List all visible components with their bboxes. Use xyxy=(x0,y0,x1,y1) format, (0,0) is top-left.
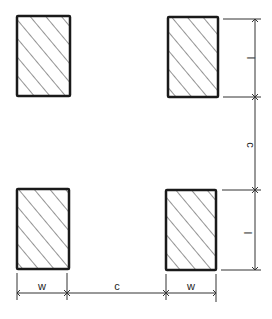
dim-label-l-bottom: l xyxy=(242,232,254,234)
dim-label-w-right: w xyxy=(186,280,195,292)
dim-label-w-left: w xyxy=(37,280,46,292)
pad-top-left xyxy=(17,16,70,96)
dim-label-l-top: l xyxy=(245,57,257,59)
land-pattern-diagram: l c l w c w xyxy=(0,0,272,319)
dim-label-c-vertical: c xyxy=(245,142,257,148)
pad-bottom-right xyxy=(166,190,216,270)
dim-label-c-horizontal: c xyxy=(114,280,120,292)
pad-bottom-left xyxy=(17,189,69,269)
pad-top-right xyxy=(168,17,218,97)
